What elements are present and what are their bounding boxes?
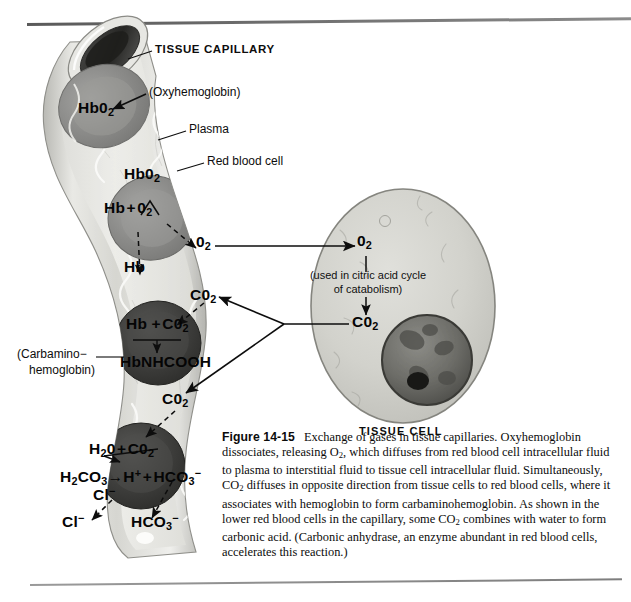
carbaminohemoglobin-label-line2: hemoglobin) (29, 364, 95, 377)
rbc4-chloride-formula: Cl− (93, 486, 115, 503)
figure-caption: Figure 14-15Exchange of gases in tissue … (222, 430, 622, 560)
tissue-cell-nucleus (382, 315, 472, 405)
tissue-capillary-label: TISSUE CAPILLARY (155, 43, 275, 56)
tissue-cell (311, 189, 495, 423)
plasma-bicarbonate-formula: HCO3− (131, 513, 179, 533)
plasma-co2-upper-formula: C02 (190, 286, 216, 306)
rbc3-product-formula: HbNHCOOH (120, 353, 211, 370)
rbc2-oxyhemoglobin-formula: Hb02 (124, 165, 160, 185)
figure-page: TISSUE CAPILLARY (Oxyhemoglobin) Plasma … (0, 0, 631, 602)
oxyhemoglobin-label: (Oxyhemoglobin) (149, 86, 240, 99)
rbc1-oxyhemoglobin-formula: Hb02 (78, 99, 114, 119)
red-blood-cell-3 (115, 301, 201, 385)
rbc4-reactants-formula: H20 + C02 (89, 440, 154, 460)
plasma-co2-lower-formula: C02 (162, 390, 188, 410)
tissue-cell-catabolism-note: (used in citric acid cycle of catabolism… (306, 269, 430, 297)
carbaminohemoglobin-label-line1: (Carbamino− (17, 348, 87, 361)
rbc2-dissociation-products: Hb + 02 (104, 199, 152, 219)
tissue-cell-o2-formula: 02 (357, 232, 372, 252)
tissue-cell-co2-formula: C02 (352, 313, 378, 333)
plasma-label: Plasma (189, 123, 229, 136)
catabolism-note-line2: of catabolism) (334, 283, 402, 295)
catabolism-note-line1: (used in citric acid cycle (310, 269, 426, 281)
rbc4-carbonic-acid-equation: H2CO3→H+ + HCO3− (60, 468, 201, 488)
rbc3-reactants-formula: Hb + C02 (126, 315, 189, 335)
figure-number: Figure 14-15 (222, 430, 295, 444)
red-blood-cell-label: Red blood cell (207, 155, 283, 168)
plasma-chloride-formula: Cl− (62, 513, 84, 530)
plasma-o2-formula: 02 (196, 233, 211, 253)
plasma-hb-formula: Hb (124, 258, 145, 275)
figure-caption-text: Exchange of gases in tissue capillaries.… (222, 430, 610, 559)
